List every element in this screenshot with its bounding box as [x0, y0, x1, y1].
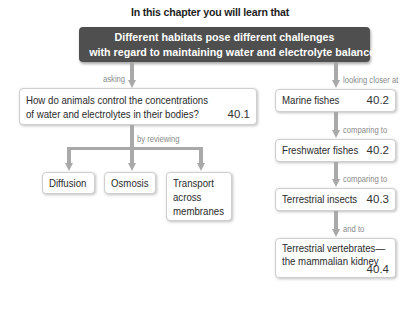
terrestrial-vertebrates-box: Terrestrial vertebrates— the mammalian k…	[275, 238, 396, 278]
connector-label-comparing-to: comparing to	[343, 125, 387, 135]
section-number: 40.3	[367, 193, 389, 205]
question-box: How do animals control the concentration…	[19, 88, 257, 125]
arrow-down-icon	[197, 163, 205, 171]
arrow-down-icon	[332, 179, 340, 187]
connector-line	[130, 62, 134, 81]
question-line-2: of water and electrolytes in their bodie…	[26, 108, 199, 120]
connector-label-and-to: and to	[343, 224, 364, 234]
topic-line-1: Transport	[173, 177, 214, 189]
arrow-down-icon	[65, 163, 73, 171]
terrestrial-insects-box: Terrestrial insects 40.3	[275, 188, 396, 211]
main-concept-line-1: Different habitats pose different challe…	[89, 30, 360, 45]
section-number: 40.1	[228, 108, 250, 120]
connector-line	[334, 62, 338, 81]
connector-line	[334, 211, 338, 230]
box-line-1: Terrestrial vertebrates—	[282, 242, 385, 254]
connector-line	[199, 147, 203, 164]
box-label: Terrestrial insects	[282, 193, 357, 205]
main-concept-box: Different habitats pose different challe…	[79, 27, 370, 62]
main-concept-line-2: with regard to maintaining water and ele…	[89, 45, 360, 60]
topic-label: Osmosis	[111, 177, 149, 189]
arrow-down-icon	[128, 80, 136, 88]
arrow-down-icon	[332, 130, 340, 138]
connector-line	[334, 162, 338, 180]
connector-label-looking-closer-at: looking closer at	[343, 75, 398, 85]
box-line-2: the mammalian kidney	[282, 255, 379, 267]
arrow-down-icon	[332, 80, 340, 88]
branch-line	[67, 147, 203, 150]
connector-line	[334, 112, 338, 131]
topic-transport-across-membranes: Transport across membranes	[166, 172, 232, 221]
section-number: 40.4	[367, 263, 389, 275]
topic-line-2: across	[173, 191, 201, 203]
connector-label-comparing-to: comparing to	[343, 174, 387, 184]
connector-label-by-reviewing: by reviewing	[137, 134, 180, 144]
section-number: 40.2	[367, 144, 389, 156]
connector-line	[67, 147, 71, 164]
topic-label: Diffusion	[49, 177, 86, 189]
freshwater-fishes-box: Freshwater fishes 40.2	[275, 139, 396, 162]
section-number: 40.2	[367, 94, 389, 106]
marine-fishes-box: Marine fishes 40.2	[275, 89, 396, 112]
connector-line	[130, 147, 134, 164]
box-label: Freshwater fishes	[282, 144, 358, 156]
connector-label-asking: asking	[103, 74, 125, 84]
topic-line-3: membranes	[173, 205, 224, 217]
question-line-1: How do animals control the concentration…	[26, 94, 208, 106]
arrow-down-icon	[332, 229, 340, 237]
chapter-intro-title: In this chapter you will learn that	[17, 6, 403, 18]
arrow-down-icon	[128, 163, 136, 171]
topic-osmosis: Osmosis	[104, 172, 156, 194]
box-label: Marine fishes	[282, 94, 339, 106]
topic-diffusion: Diffusion	[42, 172, 95, 194]
